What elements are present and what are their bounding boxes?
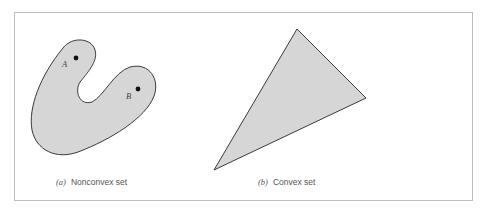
caption-b: (b)Convex set bbox=[258, 177, 315, 187]
caption-a-tag: (a) bbox=[56, 177, 66, 187]
caption-b-text: Convex set bbox=[273, 177, 316, 187]
point-b-label: B bbox=[126, 91, 131, 101]
point-a-dot bbox=[74, 56, 79, 61]
caption-a: (a)Nonconvex set bbox=[56, 177, 127, 187]
point-b-dot bbox=[136, 87, 141, 92]
point-a-label: A bbox=[62, 59, 67, 69]
caption-b-tag: (b) bbox=[258, 177, 268, 187]
caption-a-text: Nonconvex set bbox=[71, 177, 127, 187]
convex-set-triangle bbox=[214, 29, 366, 170]
nonconvex-set-shape bbox=[31, 40, 155, 155]
